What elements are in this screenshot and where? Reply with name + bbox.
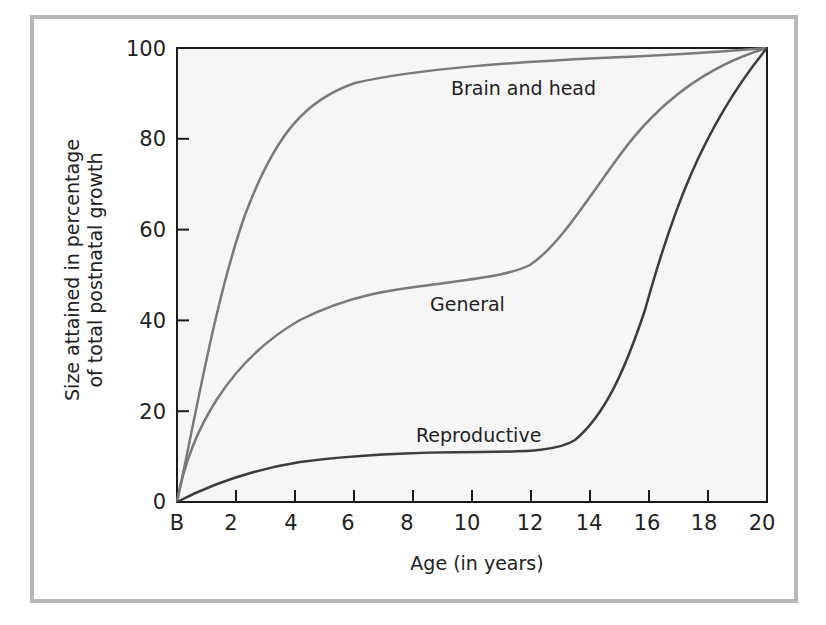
series-label-brain-and-head: Brain and head (451, 77, 596, 99)
x-tick-label-18: 18 (691, 511, 718, 535)
x-tick-label-16: 16 (634, 511, 661, 535)
x-tick-label-20: 20 (749, 511, 776, 535)
growth-chart: 100 80 60 40 20 0 B 2 4 6 8 10 12 14 16 … (0, 0, 826, 625)
x-tick-label-10: 10 (454, 511, 481, 535)
y-tick-label-100: 100 (126, 37, 166, 61)
x-tick-label-12: 12 (517, 511, 544, 535)
y-tick-label-0: 0 (153, 490, 166, 514)
x-tick-label-8: 8 (400, 511, 413, 535)
x-tick-label-6: 6 (341, 511, 354, 535)
y-tick-label-20: 20 (139, 400, 166, 424)
x-tick-label-2: 2 (224, 511, 237, 535)
y-axis-title-line2: of total postnatal growth (84, 152, 106, 387)
x-axis-title: Age (in years) (410, 552, 543, 574)
y-axis-title-line1: Size attained in percentage (61, 139, 83, 401)
y-tick-label-60: 60 (139, 218, 166, 242)
x-tick-label-14: 14 (576, 511, 603, 535)
x-tick-label-b: B (170, 511, 184, 535)
y-tick-label-80: 80 (139, 127, 166, 151)
x-tick-label-4: 4 (284, 511, 297, 535)
series-label-reproductive: Reproductive (416, 424, 541, 446)
y-tick-label-40: 40 (139, 309, 166, 333)
series-label-general: General (430, 293, 505, 315)
